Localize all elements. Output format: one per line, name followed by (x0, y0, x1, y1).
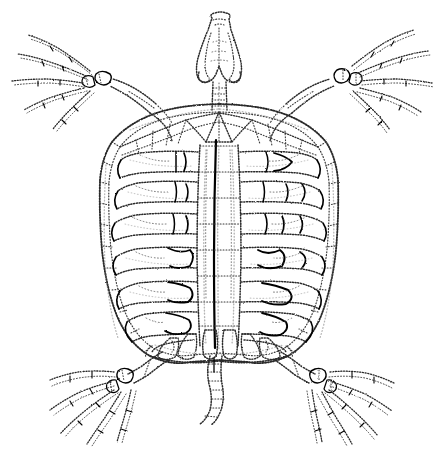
turtle-skeleton-drawing (0, 0, 443, 450)
illustration-plate (0, 0, 443, 450)
